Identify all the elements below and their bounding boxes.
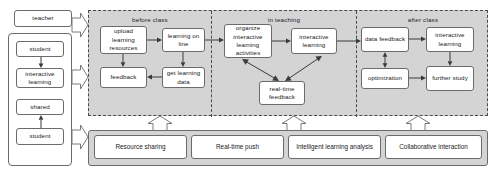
actor-student-bottom-label: student (30, 132, 51, 140)
service-real-time-push[interactable]: Real-time push (191, 135, 284, 159)
connector-data-feedback-to-optimization (382, 52, 388, 68)
actor-student-top[interactable]: student (16, 41, 64, 57)
connector-upload-to-feedback (120, 54, 126, 67)
connector-optimization-to-further-study (409, 75, 426, 81)
connector-upload-to-learning-online (147, 37, 162, 43)
node-further-study-label: further study (432, 74, 468, 82)
node-real-time-feedback[interactable]: real-time feedback (259, 81, 305, 105)
service-intelligent-learning-analysis-label: Intelligent learning analysis (296, 143, 373, 151)
node-real-time-feedback-label: real-time feedback (262, 85, 302, 102)
block-arrow-interactive-to-stage (72, 64, 88, 90)
actor-teacher-label: teacher (32, 14, 53, 22)
service-intelligent-learning-analysis[interactable]: Intelligent learning analysis (288, 135, 381, 159)
node-feedback[interactable]: feedback (100, 67, 147, 88)
node-upload-learning-resources-label: upload learning resources (103, 27, 144, 52)
connector-interactive-after-to-further-study (447, 52, 453, 66)
connector-organize-to-real-time-feedback (241, 57, 281, 83)
node-data-feedback-label: data feedback (365, 35, 405, 43)
connector-learning-online-to-get-data (180, 52, 186, 67)
phase-label-after-class-text: after class (408, 16, 438, 23)
connector-get-data-to-feedback (147, 74, 162, 80)
node-organize-interactive-learning-activities[interactable]: organize interactive learning activities (224, 24, 272, 58)
block-arrow-teacher-to-stage (72, 12, 88, 38)
node-get-learning-data-label: get learning data (165, 69, 202, 86)
service-collaborative-interaction[interactable]: Collaborative interaction (385, 135, 482, 159)
node-optimization[interactable]: optimization (361, 68, 409, 89)
service-resource-sharing[interactable]: Resource sharing (94, 135, 187, 159)
actor-teacher[interactable]: teacher (14, 10, 72, 27)
connector-student-to-interactive (38, 57, 44, 68)
teaching-stage-container: before class in teaching after class upl… (88, 10, 488, 116)
phase-label-after-class: after class (357, 16, 489, 23)
connector-organize-to-interactive-mid (272, 38, 291, 44)
service-collaborative-interaction-label: Collaborative interaction (399, 143, 468, 151)
phase-label-in-teaching-text: in teaching (268, 16, 300, 23)
node-data-feedback[interactable]: data feedback (361, 27, 409, 52)
actor-interactive-learning[interactable]: interactive learning (16, 68, 64, 88)
phase-label-before-class: before class (89, 16, 211, 23)
actor-shared[interactable]: shared (16, 99, 64, 115)
node-upload-learning-resources[interactable]: upload learning resources (100, 26, 147, 54)
actor-student-bottom[interactable]: student (16, 128, 64, 145)
service-resource-sharing-label: Resource sharing (115, 143, 165, 151)
node-interactive-learning-mid[interactable]: interactive learning (291, 28, 337, 54)
actor-shared-label: shared (30, 103, 50, 111)
node-feedback-label: feedback (111, 73, 137, 81)
node-interactive-learning-after-label: interactive learning (429, 31, 471, 48)
node-optimization-label: optimization (368, 74, 402, 82)
node-interactive-learning-after[interactable]: interactive learning (426, 27, 474, 52)
connector-interactive-mid-to-data-feedback (337, 38, 361, 44)
connector-interactive-mid-to-real-time-feedback (283, 54, 323, 84)
service-real-time-push-label: Real-time push (216, 143, 259, 151)
node-learning-on-line[interactable]: learning on line (162, 28, 205, 52)
node-organize-label: organize interactive learning activities (227, 24, 269, 57)
phase-label-before-class-text: before class (132, 16, 168, 23)
phase-label-in-teaching: in teaching (211, 16, 357, 23)
node-learning-on-line-label: learning on line (165, 32, 202, 49)
diagram-root: teacher student interactive learning sha… (0, 0, 496, 176)
actor-interactive-learning-label: interactive learning (19, 70, 61, 87)
node-further-study[interactable]: further study (426, 66, 474, 91)
connector-learning-online-to-organize (205, 37, 224, 43)
node-interactive-learning-mid-label: interactive learning (294, 33, 334, 50)
node-get-learning-data[interactable]: get learning data (162, 67, 205, 88)
block-arrow-student-to-services (72, 124, 88, 150)
connector-student-to-shared (38, 115, 44, 128)
actor-student-top-label: student (30, 45, 51, 53)
connector-data-feedback-to-interactive-after (409, 36, 426, 42)
